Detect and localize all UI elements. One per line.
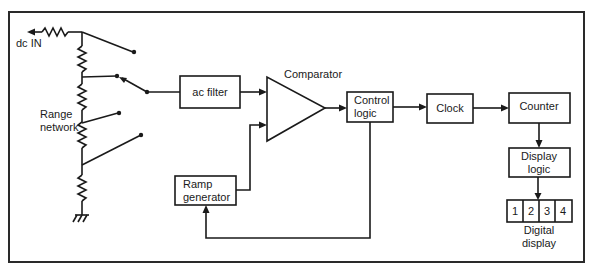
- diagram-frame: [9, 12, 584, 262]
- resistor-3-icon: [78, 122, 86, 148]
- clock-label: Clock: [436, 102, 464, 114]
- digit-3: 3: [544, 205, 550, 217]
- comparator-label: Comparator: [284, 68, 342, 80]
- ground-icon: [73, 215, 89, 222]
- resistor-1-icon: [78, 46, 86, 72]
- ac-filter-label: ac filter: [192, 86, 228, 98]
- switch-contact-1: [132, 50, 136, 54]
- dc-in-label: dc IN: [16, 37, 42, 49]
- dc-input: [27, 28, 82, 36]
- control-logic-label-1: Control: [354, 94, 389, 106]
- counter-label: Counter: [519, 100, 558, 112]
- display-logic-label-2: logic: [528, 163, 551, 175]
- digital-display-label-1: Digital: [524, 224, 555, 236]
- display-logic-label-1: Display: [521, 150, 558, 162]
- control-logic-label-2: logic: [354, 107, 377, 119]
- ramp-generator-label-1: Ramp: [183, 178, 212, 190]
- switch-contact-2: [115, 74, 119, 78]
- ramp-generator-label-2: generator: [183, 191, 230, 203]
- digital-display: 1 2 3 4: [507, 200, 572, 222]
- digit-2: 2: [528, 205, 534, 217]
- digital-display-label-2: display: [522, 237, 557, 249]
- switch-wiper: [122, 78, 147, 92]
- switch-contact-3: [117, 111, 121, 115]
- range-network-label-1: Range: [40, 108, 72, 120]
- resistor-2-icon: [78, 84, 86, 110]
- digit-1: 1: [512, 205, 518, 217]
- range-network-label-2: network: [40, 121, 79, 133]
- dvm-block-diagram: dc IN Range network: [0, 0, 592, 270]
- range-switch: [82, 32, 180, 165]
- resistor-4-icon: [78, 175, 86, 201]
- input-resistor-icon: [42, 28, 68, 36]
- comparator-block: [267, 77, 325, 141]
- switch-contact-4: [139, 133, 143, 137]
- digit-4: 4: [560, 205, 566, 217]
